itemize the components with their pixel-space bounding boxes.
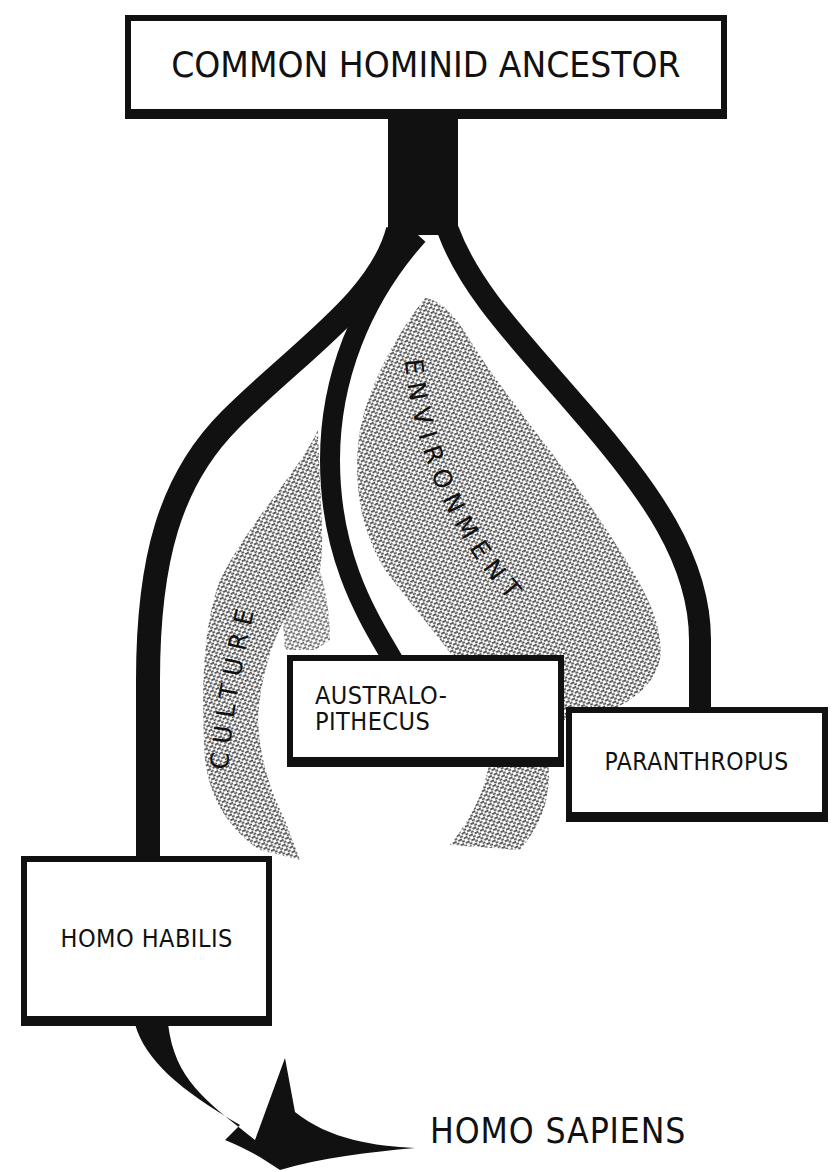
node-paranthropus: PARANTHROPUS: [566, 707, 828, 822]
node-label-line-1: AUSTRALO-: [315, 681, 447, 710]
node-label: HOMO HABILIS: [60, 926, 232, 952]
node-homo-sapiens: HOMO SAPIENS: [430, 1112, 686, 1150]
node-common-hominid-ancestor: COMMON HOMINID ANCESTOR: [125, 15, 727, 119]
arrow-to-homo-sapiens: [135, 1024, 415, 1170]
node-australopithecus: AUSTRALO- PITHECUS: [287, 655, 564, 767]
node-label: PARANTHROPUS: [605, 749, 789, 775]
node-homo-habilis: HOMO HABILIS: [21, 856, 272, 1026]
node-label: COMMON HOMINID ANCESTOR: [171, 46, 680, 84]
node-label: AUSTRALO- PITHECUS: [315, 683, 447, 736]
node-label-line-2: PITHECUS: [315, 707, 430, 736]
